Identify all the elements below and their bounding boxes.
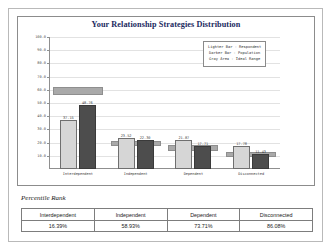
bar-value-label: 23.52 [121,134,132,138]
bar-respondent: 21.87 [175,140,192,169]
percentile-rank-table: InterdependentIndependentDependentDiscon… [21,208,313,232]
y-axis-tick-label: 40.0 [37,114,46,118]
chart-panel: Your Relationship Strategies Distributio… [17,16,315,186]
x-axis-tick-label: Dependent [184,172,203,176]
x-axis-tick-label: Interdependent [63,172,93,176]
table-row: 16.39%58.93%73.71%86.08% [22,221,313,232]
bar-value-label: 37.15 [63,116,74,120]
bar-respondent: 23.52 [118,138,135,169]
table-column-header: Interdependent [22,209,95,221]
bar-value-label: 21.87 [178,136,189,140]
bar-value-label: 48.76 [82,101,93,105]
table-column-header: Independent [94,209,167,221]
y-axis-tick-label: 100.0 [35,35,46,39]
bar-population: 22.30 [137,140,154,169]
percentile-rank-heading: Percentile Rank [21,194,66,202]
table-cell-percentile: 86.08% [240,221,313,232]
y-axis-tick-label: 60.0 [37,88,46,92]
table-column-header: Disconnected [240,209,313,221]
bar-respondent: 37.15 [60,120,77,169]
bar-group: 37.1548.76Interdependent [49,37,107,169]
y-axis-tick-label: 50.0 [37,101,46,105]
bar-population: 11.43 [252,154,269,169]
table-cell-percentile: 73.71% [167,221,240,232]
bar-value-label: 22.30 [140,136,151,140]
y-axis-tick-label: 70.0 [37,75,46,79]
bar-value-label: 17.78 [236,142,247,146]
bar-value-label: 11.43 [255,150,266,154]
chart-title: Your Relationship Strategies Distributio… [18,20,314,29]
y-axis-tick-label: 90.0 [37,48,46,52]
bar-respondent: 17.78 [233,146,250,169]
bar-group: 23.5222.30Independent [107,37,165,169]
y-axis-tick-label: 20.0 [37,141,46,145]
table-column-header: Dependent [167,209,240,221]
bar-value-label: 17.71 [197,142,208,146]
report-page: Your Relationship Strategies Distributio… [8,8,323,242]
x-axis-tick-label: Independent [124,172,148,176]
table-cell-percentile: 16.39% [22,221,95,232]
bar-population: 48.76 [79,105,96,169]
y-axis-tick-label: 10.0 [37,154,46,158]
y-axis-tick-label: 30.0 [37,127,46,131]
x-axis-tick-label: Disconnected [238,172,264,176]
table-header-row: InterdependentIndependentDependentDiscon… [22,209,313,221]
y-axis-tick-label: 80.0 [37,61,46,65]
legend-item: Gray Area - Ideal Range [208,56,261,62]
table-cell-percentile: 58.93% [94,221,167,232]
bar-population: 17.71 [194,146,211,169]
chart-legend: Lighter Bar - RespondentDarker Bar - Pop… [203,41,266,67]
